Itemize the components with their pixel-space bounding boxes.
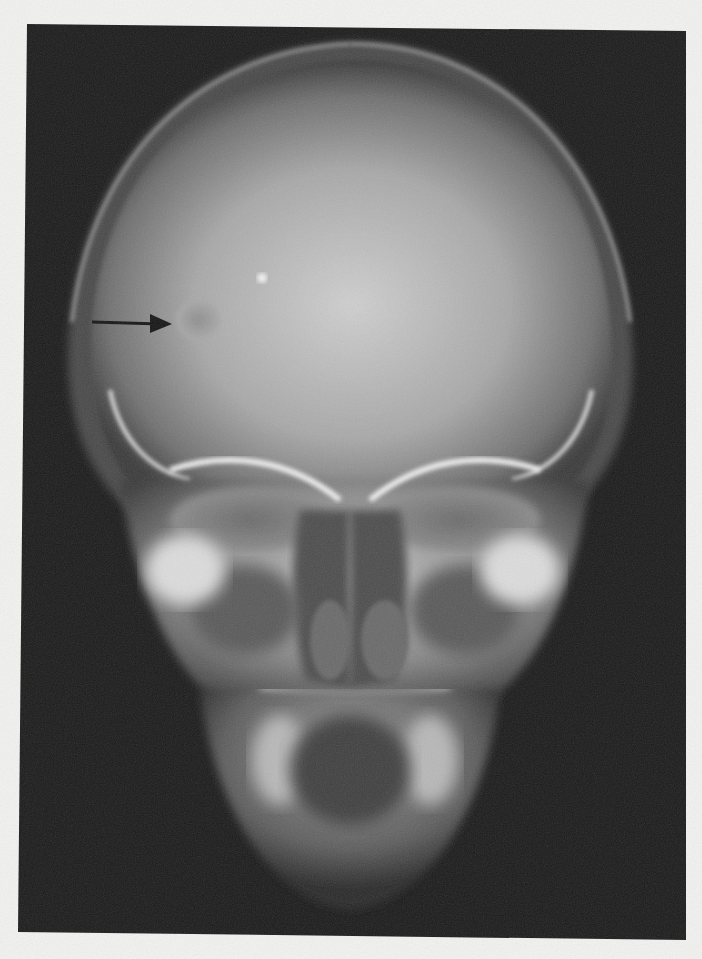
page [0,0,702,959]
film-grain [18,24,686,940]
radiograph-svg [0,0,702,959]
skull-radiograph [0,0,702,959]
